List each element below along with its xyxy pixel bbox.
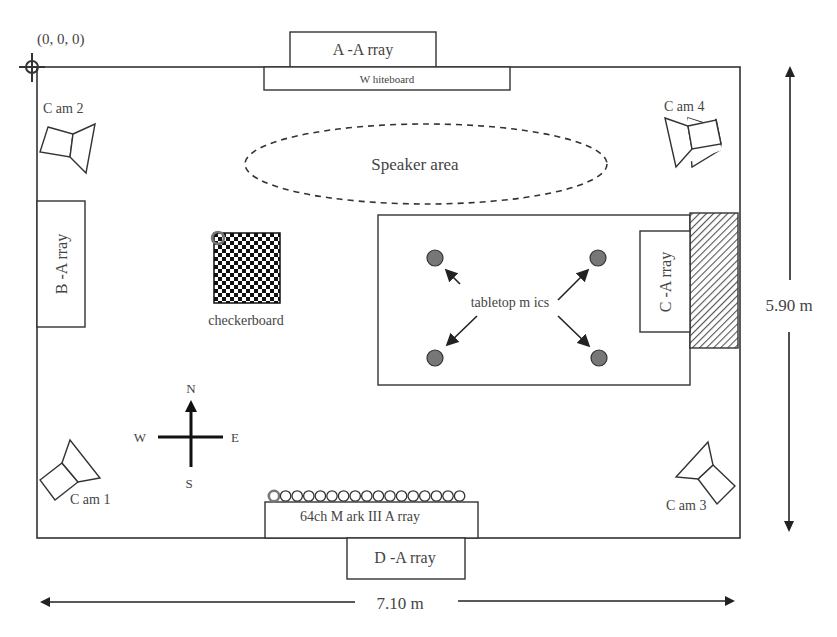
mark3-mic-icon <box>269 491 279 501</box>
compass-s: S <box>185 476 192 491</box>
width-dimension-label: 7.10 m <box>376 594 423 613</box>
camera-3-icon <box>676 442 735 504</box>
mark3-mic-icon <box>420 491 430 501</box>
mark3-array-label: 64ch M ark III A rray <box>300 509 420 524</box>
camera-4-icon-body <box>665 118 722 167</box>
d-array-label: D -A rray <box>374 549 435 567</box>
compass-n: N <box>186 381 196 396</box>
camera-4-label: C am 4 <box>664 99 704 114</box>
b-array-label: B -A rray <box>53 234 71 294</box>
camera-1-icon <box>40 440 100 500</box>
compass-w: W <box>134 430 147 445</box>
mark3-mic-icon <box>338 491 348 501</box>
checkerboard-label: checkerboard <box>208 313 283 328</box>
camera-3-label: C am 3 <box>666 498 706 513</box>
mic-icon <box>427 250 443 266</box>
origin-crosshair-icon <box>19 53 45 82</box>
mark3-mic-icon <box>408 491 418 501</box>
tabletop-mics-label: tabletop m ics <box>471 295 550 310</box>
mark3-mic-icon <box>454 491 464 501</box>
a-array-label: A -A rray <box>333 41 393 59</box>
camera-2-label: C am 2 <box>43 101 83 116</box>
mark3-mic-row <box>269 491 465 501</box>
mark3-mic-icon <box>315 491 325 501</box>
camera-1-label: C am 1 <box>70 492 110 507</box>
mic-icon <box>590 250 606 266</box>
mic-icon <box>427 350 443 366</box>
origin-label: (0, 0, 0) <box>37 31 85 48</box>
mark3-mic-icon <box>292 491 302 501</box>
checkerboard <box>214 233 280 303</box>
speaker-area-label: Speaker area <box>371 155 459 174</box>
mark3-mic-icon <box>327 491 337 501</box>
compass-icon <box>158 400 223 467</box>
height-dimension-label: 5.90 m <box>765 296 812 315</box>
mark3-mic-icon <box>280 491 290 501</box>
compass-e: E <box>231 430 239 445</box>
camera-2-icon <box>40 124 95 173</box>
mark3-mic-icon <box>362 491 372 501</box>
mark3-mic-icon <box>443 491 453 501</box>
hatched-panel <box>690 213 738 348</box>
mark3-mic-icon <box>350 491 360 501</box>
mark3-mic-icon <box>396 491 406 501</box>
mark3-mic-icon <box>385 491 395 501</box>
mark3-mic-icon <box>431 491 441 501</box>
mark3-mic-icon <box>373 491 383 501</box>
c-array-label: C -A rray <box>657 252 675 312</box>
mark3-mic-icon <box>304 491 314 501</box>
room-layout-diagram: (0, 0, 0) A -A rray W hiteboard Speaker … <box>0 0 837 637</box>
whiteboard-label: W hiteboard <box>360 73 415 85</box>
mic-icon <box>591 350 607 366</box>
